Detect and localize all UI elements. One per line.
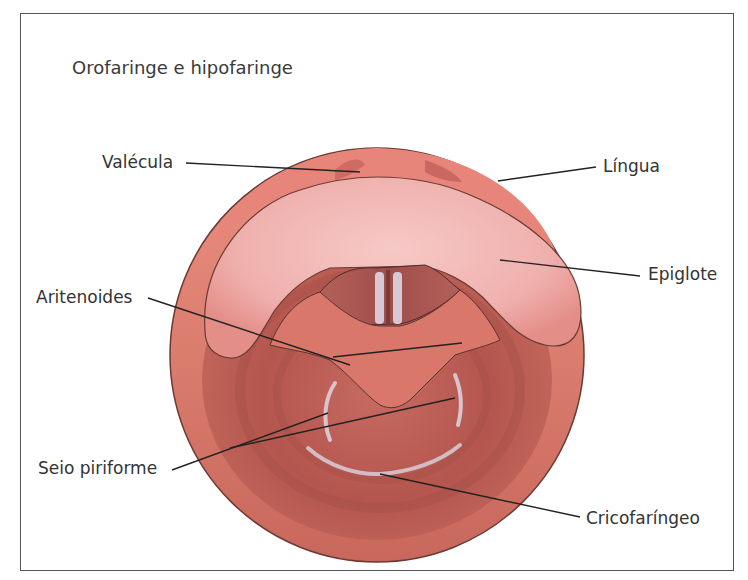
vocal-cord-left xyxy=(375,272,384,324)
label-lingua: Língua xyxy=(603,158,660,175)
rima-glottidis xyxy=(386,270,390,325)
label-cricofaringeo: Cricofaríngeo xyxy=(586,510,700,527)
label-seio-piriforme: Seio piriforme xyxy=(38,460,157,477)
leader-line-lingua xyxy=(498,167,596,181)
vocal-cord-right xyxy=(393,272,402,324)
figure-title: Orofaringe e hipofaringe xyxy=(72,57,293,78)
label-epiglote: Epiglote xyxy=(648,266,717,283)
label-aritenoides: Aritenoides xyxy=(36,289,132,306)
label-valecula: Valécula xyxy=(102,154,173,171)
